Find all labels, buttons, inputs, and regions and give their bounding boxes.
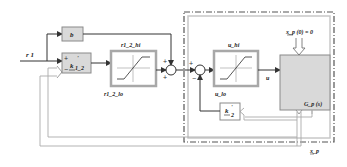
- sum1-sign-top: +: [163, 58, 167, 65]
- sum2-sign-plus: +: [189, 60, 193, 67]
- k1-2-subscript: 1_2: [75, 65, 84, 71]
- xp-label: x_p: [309, 148, 319, 154]
- gain-block-k2[interactable]: k ' 2: [220, 103, 240, 120]
- r1-2-lo-label: r1_2_lo: [104, 91, 123, 97]
- sum2-sign-minus: −: [192, 75, 196, 82]
- k1-2-minus-sign: −: [64, 66, 68, 73]
- u-lo-label: u_lo: [215, 91, 226, 97]
- r1-input-signal: r 1: [20, 51, 62, 61]
- k1-2-num: k: [70, 62, 74, 70]
- plant-label: G_p (s): [304, 101, 322, 108]
- u-hi-label: u_hi: [228, 42, 240, 48]
- k2-subscript: 2: [230, 112, 234, 118]
- control-block-diagram: r 1 b + − k ' 1_2 r1_2_hi r1_2_lo + +: [0, 0, 347, 167]
- k2-num: k: [225, 107, 229, 115]
- initial-condition-input: x_p (0) = 0: [285, 29, 313, 55]
- r1-label: r 1: [26, 51, 34, 59]
- xp-output: x_p: [309, 148, 319, 154]
- u-signal-label: u: [266, 75, 270, 81]
- sum-junction-2: + −: [189, 60, 205, 82]
- plant-block-gp[interactable]: G_p (s): [280, 55, 330, 110]
- sum1-sign-left: +: [163, 74, 167, 81]
- k1-2-plus-sign: +: [64, 55, 68, 62]
- gain-block-k1-2[interactable]: + − k ' 1_2: [62, 53, 91, 73]
- gain-block-b[interactable]: b: [62, 27, 83, 41]
- saturation-block-r1-2[interactable]: r1_2_hi r1_2_lo: [104, 42, 156, 97]
- saturation-block-u[interactable]: u_hi u_lo: [214, 42, 258, 97]
- xp-feedback-path: [40, 66, 301, 146]
- r1-2-hi-label: r1_2_hi: [121, 42, 141, 48]
- gain-b-label: b: [70, 31, 74, 39]
